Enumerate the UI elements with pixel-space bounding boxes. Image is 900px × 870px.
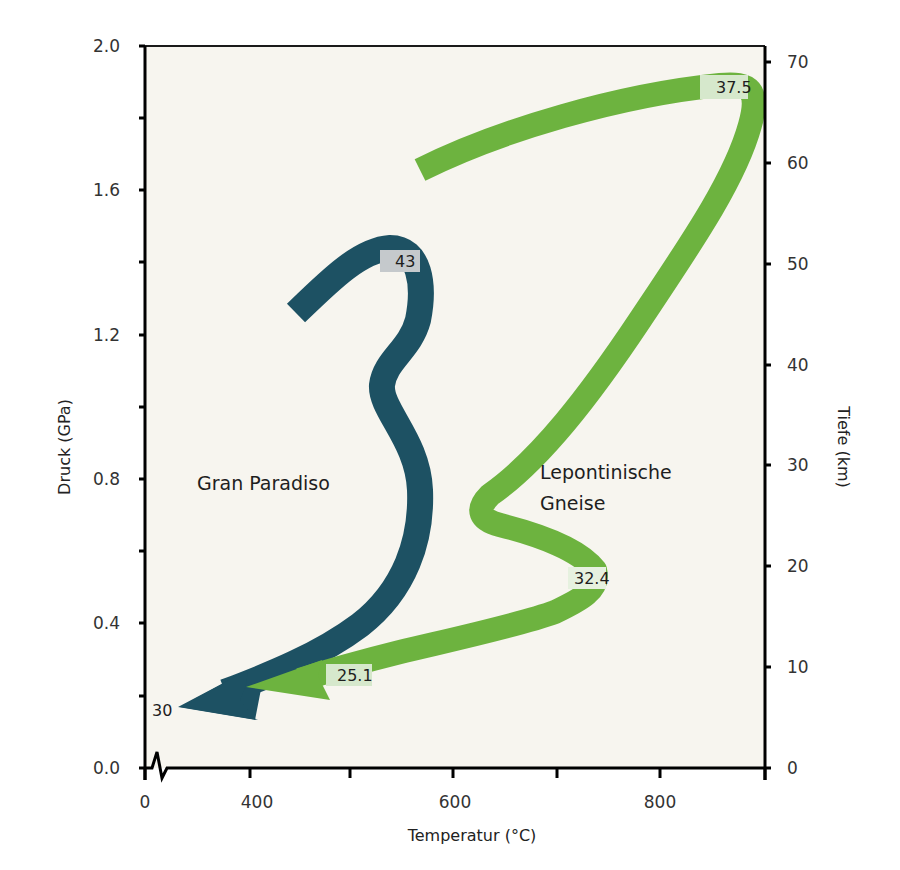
x-axis-title: Temperatur (°C) bbox=[407, 826, 537, 845]
y-axis-right: 70 60 50 40 30 20 10 0 Tiefe (km) bbox=[765, 46, 853, 780]
y2-tick-20: 20 bbox=[787, 556, 809, 576]
y-tick-0-4: 0.4 bbox=[93, 613, 120, 633]
y2-tick-0: 0 bbox=[787, 758, 798, 778]
y-axis-title: Druck (GPa) bbox=[55, 399, 74, 495]
x-tick-800: 800 bbox=[644, 792, 676, 812]
y-axis-left: 2.0 1.6 1.2 0.8 0.4 0.0 Druck (GPa) bbox=[55, 36, 145, 780]
pt-path-chart: 43 37.5 32.4 25.1 30 Gran Paradiso Lepon… bbox=[0, 0, 900, 870]
y2-tick-60: 60 bbox=[787, 153, 809, 173]
label-30: 30 bbox=[152, 701, 172, 720]
label-37-5: 37.5 bbox=[716, 78, 752, 97]
y2-tick-70: 70 bbox=[787, 52, 809, 72]
y-tick-1-2: 1.2 bbox=[93, 325, 120, 345]
y2-tick-40: 40 bbox=[787, 355, 809, 375]
x-tick-400: 400 bbox=[241, 792, 273, 812]
label-lepontinische-line2: Gneise bbox=[540, 492, 605, 514]
x-tick-0: 0 bbox=[140, 792, 151, 812]
y2-tick-10: 10 bbox=[787, 657, 809, 677]
label-32-4: 32.4 bbox=[574, 569, 610, 588]
y2-axis-title: Tiefe (km) bbox=[834, 405, 853, 487]
y2-tick-30: 30 bbox=[787, 455, 809, 475]
label-gran-paradiso: Gran Paradiso bbox=[197, 472, 330, 494]
y-tick-0-0: 0.0 bbox=[93, 758, 120, 778]
label-43: 43 bbox=[395, 252, 415, 271]
label-lepontinische-line1: Lepontinische bbox=[540, 461, 672, 483]
y-tick-0-8: 0.8 bbox=[93, 469, 120, 489]
label-25-1: 25.1 bbox=[337, 666, 373, 685]
y-tick-1-6: 1.6 bbox=[93, 180, 120, 200]
y2-tick-50: 50 bbox=[787, 254, 809, 274]
x-tick-600: 600 bbox=[439, 792, 471, 812]
y-tick-2-0: 2.0 bbox=[93, 36, 120, 56]
